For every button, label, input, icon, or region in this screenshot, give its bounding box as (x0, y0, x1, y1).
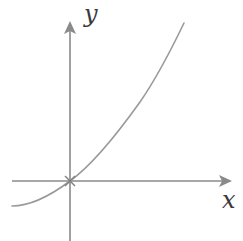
graph-svg (0, 0, 243, 241)
x-axis (12, 175, 232, 187)
x-axis-label: x (222, 188, 236, 212)
y-axis (64, 21, 76, 241)
graph-canvas: y x (0, 0, 243, 241)
function-curve (12, 23, 184, 206)
y-axis-label: y (84, 2, 98, 26)
